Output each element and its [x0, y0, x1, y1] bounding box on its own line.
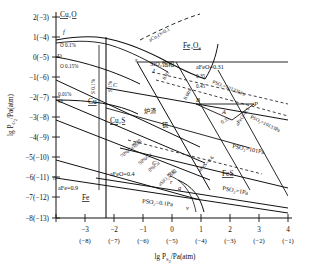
x-tick-top-3: 0 [170, 226, 174, 234]
x-tick-bot-5: (−3) [224, 237, 235, 245]
y-tick-labels: 2(−3) 1(−4) 0(−5) −1(−6) −2(−7) −3(−8) −… [25, 14, 49, 223]
y-tick-8: −6(−11) [26, 174, 50, 182]
y-tick-4: −2(−7) [29, 94, 50, 102]
conc-o-01: O 0.1% [60, 42, 77, 48]
pt-r: r [170, 178, 173, 185]
act-sio2-sat: aSiO₂饱和 [156, 167, 178, 187]
x-tick-bot-3: (−5) [166, 237, 177, 245]
pt-q: q [178, 184, 182, 191]
y-tick-0: 2(−3) [33, 14, 50, 22]
y-tick-1: 1(−4) [33, 34, 50, 42]
x-tick-labels: −3 −2 −1 0 1 2 3 4 (−8) (−7) (−6) (−5) (… [79, 226, 293, 245]
x-tick-bot-1: (−7) [108, 237, 119, 245]
phase-cu2s: Cu₂S [110, 116, 125, 125]
x-tick-top-0: −3 [81, 226, 89, 234]
x-tick-top-4: 1 [199, 226, 203, 234]
y-tick-3: −1(−6) [29, 74, 50, 82]
boundary-diag-1 [56, 80, 200, 147]
conc-o-015: O 0.15% [60, 63, 79, 69]
label-matte: 锍 [162, 121, 169, 129]
x-tick-top-5: 2 [228, 226, 232, 234]
phase-fes: FeS [222, 169, 234, 178]
line-pso2-01 [96, 178, 288, 208]
boundary-D [56, 57, 140, 84]
pt-C1: C [113, 81, 118, 88]
pt-O: O [58, 97, 63, 104]
label-slag: 炉渣 [144, 107, 157, 115]
x-tick-top-6: 3 [257, 226, 261, 234]
pt-f: f [63, 28, 66, 35]
pt-D: D [56, 52, 62, 59]
y-tick-5: −3(−8) [29, 114, 50, 122]
curve-r-v2 [170, 176, 196, 212]
boundary-cu2o-right [205, 44, 218, 79]
pso2-101: PSO₂=101Pa [232, 142, 265, 155]
x-tick-bot-4: (−4) [195, 237, 206, 245]
pt-A: A [221, 108, 226, 115]
diagram-root: 2(−3) 1(−4) 0(−5) −1(−6) −2(−7) −3(−8) −… [0, 0, 312, 272]
line-slag-mid [106, 108, 250, 148]
y-tick-2: 0(−5) [33, 54, 50, 62]
x-tick-top-1: −2 [110, 226, 118, 234]
y-tick-10: −8(−13) [25, 215, 49, 223]
phase-fe3o4: Fe₃O₄ [183, 41, 201, 50]
act-feo-04: aFeO=0.4 [110, 170, 135, 177]
phase-fe: Fe [82, 193, 90, 202]
predominance-diagram: 2(−3) 1(−4) 0(−5) −1(−6) −2(−7) −3(−8) −… [0, 0, 312, 272]
act-feo-035b: 0.35 [220, 115, 231, 125]
conc-cu-50: 50%Cu [137, 151, 153, 166]
pt-J: J [152, 67, 156, 74]
x-tick-top-2: −1 [139, 226, 147, 234]
phase-cu2o: Cu₂O [60, 10, 77, 19]
act-feo-001: 0.01 [161, 69, 171, 80]
x-tick-bot-6: (−2) [253, 237, 264, 245]
act-feo-045: 0.45 [196, 83, 205, 89]
x-tick-bot-0: (−8) [79, 237, 90, 245]
x-tick-bot-2: (−6) [137, 237, 148, 245]
pso2-1: PSO₂=1Pa [222, 184, 249, 196]
pt-v: v [186, 204, 189, 211]
x-axis-title: lg PS2/Pa(atm) [155, 253, 197, 264]
pt-C2: C [152, 159, 157, 166]
phase-cu: Cu [88, 97, 97, 106]
pt-P: P [253, 100, 258, 107]
x-tick-bot-7: (−1) [282, 237, 293, 245]
y-tick-9: −7(−12) [25, 194, 49, 202]
conc-s-01: S 0.1% [90, 78, 96, 94]
x-tick-top-7: 4 [286, 226, 290, 234]
y-tick-6: −4(−9) [29, 134, 50, 142]
pt-h: h [53, 174, 56, 181]
y-tick-7: −5(−10) [25, 154, 49, 162]
y-axis-title: lg PO2/Pa(atm) [7, 94, 18, 136]
pso2-101325: PSO₂=101325Pa [212, 78, 247, 97]
act-cu2o: aCu₂O=0.1 [148, 26, 172, 43]
pt-B: B [196, 96, 200, 103]
act-fe-09: aFe=0.9 [58, 184, 78, 191]
pso2-01: PSO₂=0.1Pa [142, 197, 174, 207]
act-feo-031: aFeO=0.31 [196, 63, 224, 70]
act-feo-035: 0.35 [196, 73, 205, 79]
